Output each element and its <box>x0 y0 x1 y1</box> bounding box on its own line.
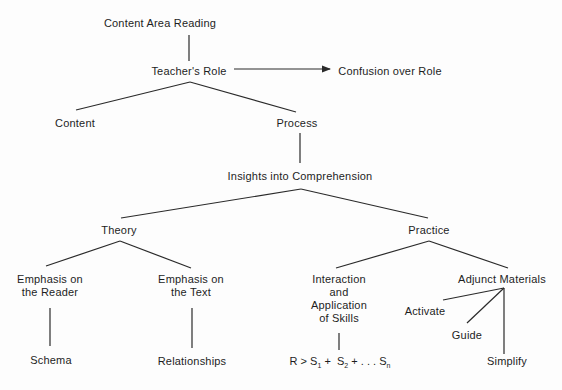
node-adjunct-materials: Adjunct Materials <box>458 273 546 286</box>
edge-insights-theory <box>121 189 301 218</box>
node-schema: Schema <box>30 354 72 367</box>
node-teachers-role: Teacher's Role <box>151 65 226 78</box>
node-emphasis-reader-line2: the Reader <box>17 286 83 299</box>
node-simplify: Simplify <box>487 355 527 368</box>
node-content: Content <box>55 117 95 130</box>
node-emphasis-text-line2: the Text <box>158 286 224 299</box>
node-emphasis-text-line1: Emphasis on <box>158 273 224 286</box>
node-guide: Guide <box>452 329 482 342</box>
formula-r: R <box>290 355 298 367</box>
node-interaction-line1: Interaction <box>311 273 367 286</box>
node-interaction-line2: and <box>311 286 367 299</box>
node-confusion-over-role: Confusion over Role <box>338 65 441 78</box>
edge-theory-text <box>120 241 191 268</box>
formula-plus2: + <box>351 355 357 367</box>
node-practice: Practice <box>408 224 449 237</box>
node-process: Process <box>276 117 317 130</box>
edge-insights-practice <box>301 189 428 218</box>
diagram-canvas: Content Area Reading Teacher's Role Conf… <box>0 0 562 390</box>
formula-gt: > <box>301 355 307 367</box>
edge-practice-interaction <box>336 241 429 268</box>
formula-sn: S <box>379 355 386 367</box>
formula-subn: n <box>386 362 390 369</box>
node-formula: R > S1 + S2 + . . . Sn <box>290 355 391 369</box>
node-insights: Insights into Comprehension <box>228 170 373 183</box>
node-interaction-line4: of Skills <box>311 312 367 325</box>
node-interaction: Interaction and Application of Skills <box>311 273 367 325</box>
node-emphasis-reader-line1: Emphasis on <box>17 273 83 286</box>
formula-sub1: 1 <box>317 362 321 369</box>
node-activate: Activate <box>405 305 446 318</box>
node-relationships: Relationships <box>158 355 227 368</box>
edge-theory-reader <box>46 241 120 266</box>
formula-sub2: 2 <box>344 362 348 369</box>
node-interaction-line3: Application <box>311 299 367 312</box>
edge-practice-adjunct <box>429 241 508 268</box>
edge-adjunct-guide <box>467 288 504 323</box>
formula-plus1: + <box>324 355 330 367</box>
formula-ellipsis: . . . <box>361 355 376 367</box>
edge-adjunct-activate <box>443 288 504 300</box>
node-emphasis-reader: Emphasis on the Reader <box>17 273 83 299</box>
node-emphasis-text: Emphasis on the Text <box>158 273 224 299</box>
edge-role-content <box>76 82 190 110</box>
formula-s2: S <box>337 355 344 367</box>
edge-role-process <box>190 82 296 112</box>
node-content-area-reading: Content Area Reading <box>104 17 216 30</box>
formula-s1: S <box>310 355 317 367</box>
node-theory: Theory <box>101 224 136 237</box>
